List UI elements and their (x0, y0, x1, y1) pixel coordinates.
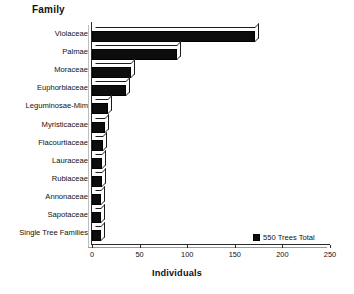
x-axis-tick-label: 250 (324, 250, 336, 259)
x-axis-tick-label: 50 (135, 250, 143, 259)
bar-front-face (92, 230, 101, 241)
y-axis-category-label: Sapotaceae (47, 210, 88, 219)
bar-row: Leguminosae-Mim (92, 98, 330, 116)
bar-side-face (101, 204, 105, 223)
bar-side-face (103, 132, 107, 151)
bar-row: Sapotaceae (92, 207, 330, 225)
y-axis-category-label: Single Tree Families (19, 228, 88, 237)
bar-side-face (177, 41, 181, 60)
bar-row: Lauraceae (92, 153, 330, 171)
plot-area: ViolaceaePalmaeMoraceaeEuphorbiaceaeLegu… (92, 26, 330, 244)
bar-side-face (105, 114, 109, 133)
bar-chart: Family ViolaceaePalmaeMoraceaeEuphorbiac… (0, 0, 354, 294)
bar-front-face (92, 67, 131, 78)
bar-row: Violaceae (92, 26, 330, 44)
x-axis-line (91, 244, 330, 245)
y-axis-category-label: Flacourtiaceae (38, 138, 88, 147)
chart-title: Family (32, 4, 65, 15)
bar-side-face (101, 222, 105, 241)
bar (92, 118, 105, 129)
bar (92, 154, 102, 165)
y-axis-shadow (88, 25, 89, 247)
bar-front-face (92, 103, 108, 114)
legend-swatch-icon (253, 234, 260, 241)
bar-side-face (102, 168, 106, 187)
x-axis-tick (92, 245, 93, 248)
bar-row: Euphorbiaceae (92, 80, 330, 98)
bar (92, 136, 103, 147)
bar-side-face (108, 95, 112, 114)
y-axis-category-label: Violaceae (55, 29, 88, 38)
x-axis-title: Individuals (0, 268, 354, 278)
bar-front-face (92, 212, 101, 223)
x-axis-tick-label: 200 (276, 250, 288, 259)
bar-side-face (131, 59, 135, 78)
bar-row: Rubiaceae (92, 171, 330, 189)
bar-side-face (101, 186, 105, 205)
legend-label: 550 Trees Total (263, 233, 315, 242)
bar-row: Flacourtiaceae (92, 135, 330, 153)
bar (92, 63, 131, 74)
bar-row: Palmae (92, 44, 330, 62)
bar-front-face (92, 176, 102, 187)
bar-front-face (92, 122, 105, 133)
bar-front-face (92, 140, 103, 151)
bar (92, 81, 126, 92)
x-axis-tick-label: 100 (181, 250, 193, 259)
x-axis-tick (140, 245, 141, 248)
bar-front-face (92, 31, 255, 42)
bar (92, 172, 102, 183)
bar (92, 226, 101, 237)
bar (92, 45, 177, 56)
x-axis-tick (282, 245, 283, 248)
chart-legend: 550 Trees Total (253, 233, 315, 242)
bar-row: Myristicaceae (92, 117, 330, 135)
bar (92, 27, 255, 38)
y-axis-category-label: Rubiaceae (52, 174, 88, 183)
x-axis-shadow (88, 247, 327, 248)
x-axis-tick (330, 245, 331, 248)
bar (92, 190, 101, 201)
bar (92, 99, 108, 110)
bar (92, 208, 101, 219)
x-axis-tick (187, 245, 188, 248)
y-axis-category-label: Euphorbiaceae (37, 83, 88, 92)
bar-side-face (102, 150, 106, 169)
x-axis-tick-label: 150 (229, 250, 241, 259)
y-axis-category-label: Leguminosae-Mim (26, 101, 88, 110)
bar-front-face (92, 194, 101, 205)
y-axis-category-label: Annonaceae (45, 192, 88, 201)
bar-side-face (126, 77, 130, 96)
y-axis-category-label: Myristicaceae (42, 120, 88, 129)
y-axis-category-label: Lauraceae (52, 156, 88, 165)
x-axis-tick-label: 0 (90, 250, 94, 259)
bar-row: Annonaceae (92, 189, 330, 207)
bar-side-face (255, 23, 259, 42)
x-axis-tick (235, 245, 236, 248)
y-axis-category-label: Palmae (62, 47, 88, 56)
bar-front-face (92, 158, 102, 169)
bar-front-face (92, 85, 126, 96)
y-axis-category-label: Moraceae (54, 65, 88, 74)
